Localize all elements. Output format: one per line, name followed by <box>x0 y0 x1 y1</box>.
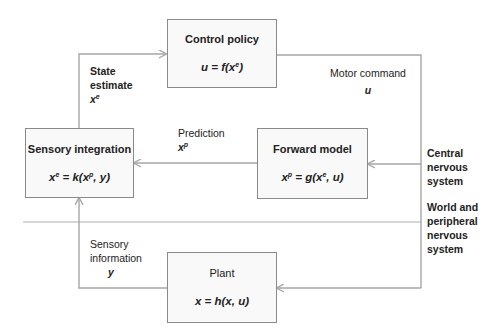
central-line3: system <box>427 174 468 188</box>
prediction-label: Prediction xp <box>178 126 225 154</box>
sensory-information-label: Sensory information y <box>90 237 142 279</box>
forward-model-box: Forward model xp = g(xe, u) <box>257 128 368 199</box>
peripheral-nervous-system-label: World and peripheral nervous system <box>427 200 478 256</box>
state-estimate-variable: xe <box>90 92 133 106</box>
sensory-information-variable: y <box>90 265 142 279</box>
central-line1: Central <box>427 146 468 160</box>
central-line2: nervous <box>427 160 468 174</box>
state-estimate-line2: estimate <box>90 78 133 92</box>
prediction-text: Prediction <box>178 126 225 140</box>
plant-box: Plant x = h(x, u) <box>167 252 277 323</box>
motor-command-label: Motor command u <box>326 66 410 97</box>
peripheral-line2: peripheral <box>427 214 478 228</box>
plant-equation: x = h(x, u) <box>195 295 249 308</box>
state-estimate-line1: State <box>90 64 133 78</box>
sensory-integration-equation: xe = k(xp, y) <box>49 171 110 184</box>
motor-command-variable: u <box>326 83 410 97</box>
sensory-information-line1: Sensory <box>90 237 142 251</box>
sensory-integration-title: Sensory integration <box>28 143 131 156</box>
peripheral-line4: system <box>427 242 478 256</box>
control-policy-title: Control policy <box>185 33 259 46</box>
plant-title: Plant <box>209 267 234 280</box>
peripheral-line3: nervous <box>427 228 478 242</box>
forward-model-title: Forward model <box>273 143 352 156</box>
control-policy-box: Control policy u = f(xe) <box>167 19 277 88</box>
control-policy-equation: u = f(xe) <box>201 61 243 74</box>
prediction-variable: xp <box>178 140 225 154</box>
sensory-integration-box: Sensory integration xe = k(xp, y) <box>25 128 134 198</box>
central-nervous-system-label: Central nervous system <box>427 146 468 188</box>
peripheral-line1: World and <box>427 200 478 214</box>
forward-model-equation: xp = g(xe, u) <box>281 171 343 184</box>
state-estimate-label: State estimate xe <box>90 64 133 106</box>
motor-command-text: Motor command <box>326 66 410 80</box>
sensory-information-line2: information <box>90 251 142 265</box>
